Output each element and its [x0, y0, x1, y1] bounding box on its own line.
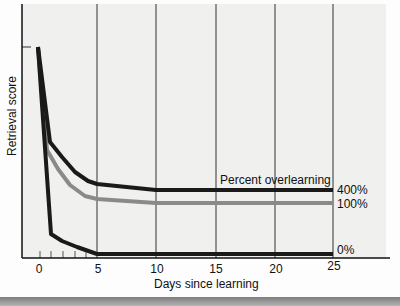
- series-0-line: [38, 47, 333, 254]
- x-tick-10: 10: [142, 262, 172, 276]
- series-label-100: 100%: [337, 197, 368, 211]
- series-label-400: 400%: [337, 183, 368, 197]
- x-tick-25: 25: [319, 259, 349, 273]
- x-tick-20: 20: [261, 262, 291, 276]
- series-400-line: [38, 47, 333, 190]
- x-axis-label: Days since learning: [154, 277, 259, 291]
- minor-ticks: [40, 251, 86, 258]
- series-label-0: 0%: [337, 243, 354, 257]
- x-tick-15: 15: [201, 262, 231, 276]
- x-tick-0: 0: [24, 262, 54, 276]
- x-tick-5: 5: [83, 262, 113, 276]
- legend-title: Percent overlearning: [220, 173, 331, 187]
- page-edge: [0, 297, 400, 306]
- gridlines: [97, 4, 333, 258]
- y-axis-label: Retrieval score: [5, 66, 19, 166]
